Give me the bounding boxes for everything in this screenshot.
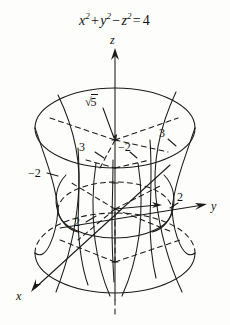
y-axis-label: y <box>211 200 216 212</box>
label-2-right: 2 <box>177 191 183 203</box>
x-axis-label: x <box>16 290 21 302</box>
radicand-value: 5 <box>91 94 98 109</box>
x-axis-arrowhead <box>31 279 41 292</box>
hyperboloid-drawing <box>0 0 230 325</box>
radius-sqrt5-label: √5 <box>85 96 98 108</box>
hyperbola-branch-upper-left <box>56 95 79 292</box>
waist-radius-arrow <box>115 202 162 209</box>
label-neg2-left: −2 <box>28 167 41 179</box>
label-3-right: 3 <box>159 127 165 139</box>
surface-silhouette-right <box>172 128 195 255</box>
label-neg2-center: −2 <box>118 141 131 153</box>
label-2-left: 2 <box>74 216 80 228</box>
hyperboloid-figure: x2+y2−z2=4 <box>0 0 230 325</box>
y-axis-line <box>60 203 207 228</box>
label-3-left: 3 <box>79 141 85 153</box>
surface-silhouette-left <box>35 128 58 255</box>
z-axis-label: z <box>110 34 115 46</box>
